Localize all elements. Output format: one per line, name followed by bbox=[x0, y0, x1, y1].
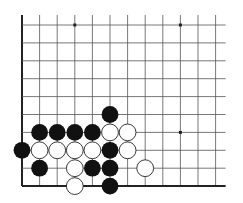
white-stone bbox=[66, 160, 83, 177]
go-board[interactable] bbox=[0, 0, 243, 203]
black-stone bbox=[66, 124, 83, 141]
stones-layer bbox=[14, 106, 154, 194]
white-stone bbox=[137, 160, 154, 177]
black-stone bbox=[31, 124, 48, 141]
white-stone bbox=[119, 124, 136, 141]
white-stone bbox=[49, 142, 66, 159]
star-point-icon bbox=[179, 131, 182, 134]
star-point-icon bbox=[73, 24, 76, 27]
white-stone bbox=[119, 142, 136, 159]
white-stone bbox=[102, 124, 119, 141]
black-stone bbox=[102, 106, 119, 123]
black-stone bbox=[102, 142, 119, 159]
white-stone bbox=[66, 142, 83, 159]
white-stone bbox=[66, 178, 83, 195]
black-stone bbox=[49, 124, 66, 141]
black-stone bbox=[14, 142, 31, 159]
star-point-icon bbox=[179, 24, 182, 27]
white-stone bbox=[31, 142, 48, 159]
black-stone bbox=[84, 124, 101, 141]
black-stone bbox=[84, 160, 101, 177]
black-stone bbox=[102, 160, 119, 177]
black-stone bbox=[31, 160, 48, 177]
board-grid bbox=[22, 15, 226, 186]
white-stone bbox=[84, 142, 101, 159]
black-stone bbox=[102, 178, 119, 195]
